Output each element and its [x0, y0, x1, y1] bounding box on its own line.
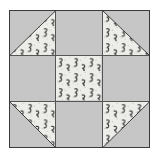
solid-square-shape: [10, 56, 55, 100]
solid-square-shape: [56, 11, 101, 55]
print-square-shape: [56, 56, 101, 100]
solid-square-shape: [56, 102, 101, 147]
half-square-triangle-shape: [10, 102, 55, 147]
quilt-cell-bottom-center: [56, 102, 102, 147]
quilt-cell-top-center: [56, 11, 102, 56]
quilt-cell-bottom-right: [103, 102, 149, 147]
quilt-cell-top-left: [10, 11, 56, 56]
quilt-cell-middle-left: [10, 56, 56, 101]
half-square-triangle-shape: [10, 11, 55, 55]
quilt-cell-bottom-left: [10, 102, 56, 147]
image-canvas: [0, 0, 159, 159]
solid-square-shape: [103, 56, 149, 100]
half-square-triangle-shape: [103, 11, 149, 55]
quilt-cell-center: [56, 56, 102, 101]
half-square-triangle-shape: [103, 102, 149, 147]
quilt-cell-middle-right: [103, 56, 149, 101]
quilt-block: [9, 10, 150, 148]
quilt-cell-top-right: [103, 11, 149, 56]
